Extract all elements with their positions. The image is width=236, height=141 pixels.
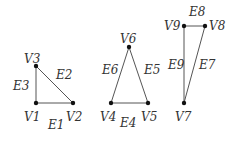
vertex-label-v5: V5: [141, 110, 157, 124]
vertex-label-v9: V9: [164, 19, 181, 33]
vertex-label-v7: V7: [175, 110, 192, 124]
vertex-v9: [182, 24, 186, 28]
vertex-label-v1: V1: [24, 110, 40, 124]
edge-label-e1: E1: [47, 118, 64, 132]
vertex-label-v6: V6: [120, 32, 137, 46]
triangle-3: E7E8E9V7V8V9: [164, 5, 226, 124]
vertex-v4: [109, 101, 113, 105]
edge-label-e2: E2: [55, 68, 72, 82]
edge-label-e8: E8: [188, 5, 206, 19]
edge-label-e4: E4: [119, 116, 136, 130]
vertex-label-v8: V8: [209, 19, 226, 33]
graph-diagram: E1E2E3V1V2V3E4E5E6V4V5V6E7E8E9V7V8V9: [0, 0, 236, 141]
vertex-v5: [146, 101, 150, 105]
edge-label-e6: E6: [101, 63, 119, 77]
vertex-label-v2: V2: [66, 110, 82, 124]
edge-label-e5: E5: [143, 63, 160, 77]
vertex-v7: [182, 101, 186, 105]
vertex-label-v4: V4: [100, 110, 116, 124]
vertex-v2: [71, 101, 75, 105]
edge-label-e9: E9: [167, 58, 185, 72]
edge-label-e7: E7: [198, 58, 216, 72]
triangle-2: E4E5E6V4V5V6: [100, 32, 160, 130]
vertex-v8: [203, 24, 207, 28]
triangle-1: E1E2E3V1V2V3: [12, 52, 82, 132]
vertex-v1: [34, 101, 38, 105]
vertex-label-v3: V3: [24, 52, 41, 66]
graph-svg: E1E2E3V1V2V3E4E5E6V4V5V6E7E8E9V7V8V9: [0, 0, 236, 141]
edge-label-e3: E3: [12, 79, 30, 93]
